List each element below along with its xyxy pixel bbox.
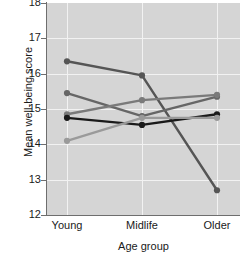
y-tick-label-17: 17 bbox=[17, 31, 41, 43]
x-axis-title: Age group bbox=[47, 240, 240, 252]
data-point-marker bbox=[64, 138, 70, 144]
data-point-marker bbox=[139, 115, 145, 121]
y-tick-label-14: 14 bbox=[17, 137, 41, 149]
y-tick-label-16: 16 bbox=[17, 67, 41, 79]
data-point-marker bbox=[64, 115, 70, 121]
data-point-marker bbox=[214, 115, 220, 121]
data-point-marker bbox=[139, 97, 145, 103]
data-point-marker bbox=[139, 122, 145, 128]
series-layer bbox=[47, 3, 240, 215]
y-tick-label-18: 18 bbox=[17, 0, 41, 8]
x-axis-line bbox=[46, 215, 240, 216]
data-point-marker bbox=[139, 72, 145, 78]
series-line-5 bbox=[67, 118, 217, 141]
y-tick-label-15: 15 bbox=[17, 102, 41, 114]
line-chart: Mean well-being score 18 17 16 15 14 13 … bbox=[0, 0, 240, 259]
x-tick-label-midlife: Midlife bbox=[107, 219, 177, 231]
plot-area bbox=[47, 3, 240, 215]
data-point-marker bbox=[214, 92, 220, 98]
y-axis-tick-labels: 18 17 16 15 14 13 12 bbox=[13, 0, 41, 220]
x-tick-label-young: Young bbox=[32, 219, 102, 231]
data-point-marker bbox=[64, 58, 70, 64]
data-point-marker bbox=[214, 187, 220, 193]
y-tick-label-13: 13 bbox=[17, 173, 41, 185]
y-axis-line bbox=[46, 2, 47, 216]
x-tick-label-older: Older bbox=[182, 219, 240, 231]
data-point-marker bbox=[64, 90, 70, 96]
